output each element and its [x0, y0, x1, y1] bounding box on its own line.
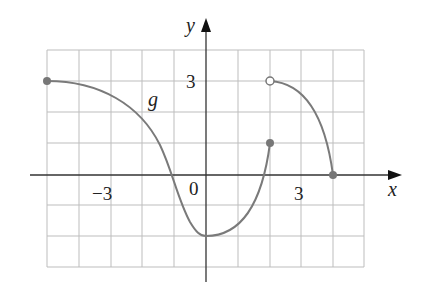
closed-point-start [43, 77, 51, 85]
function-label: g [148, 88, 158, 111]
axes [30, 28, 395, 282]
closed-point-end [329, 171, 337, 179]
closed-point-jump [266, 139, 274, 147]
origin-label: 0 [189, 178, 199, 199]
x-axis-label: x [387, 178, 397, 200]
g-curve-left [47, 81, 270, 236]
y-axis-label: y [184, 14, 195, 37]
x-tick-3: 3 [294, 183, 304, 204]
function-graph: g y x −3 3 3 0 [0, 0, 424, 298]
open-point [266, 77, 274, 85]
x-tick-neg3: −3 [92, 183, 112, 204]
y-axis-arrow-icon [201, 18, 211, 32]
y-tick-3: 3 [186, 71, 196, 92]
